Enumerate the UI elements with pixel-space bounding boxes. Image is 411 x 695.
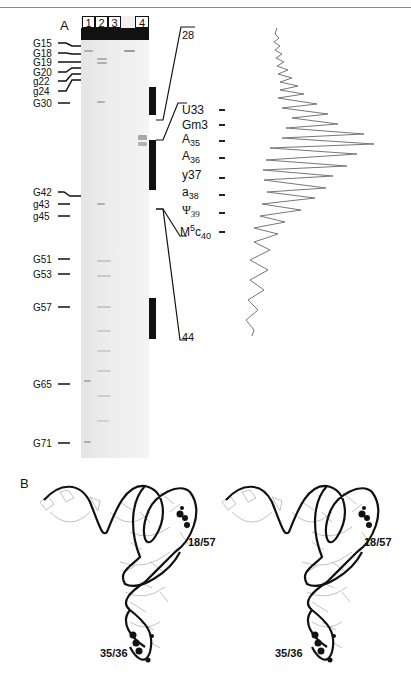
trace-label-a35: A35 [182, 133, 200, 149]
densitometry-trace [220, 20, 400, 340]
trace-label-a38: a38 [182, 186, 199, 202]
bracket-top-label: 28 [182, 30, 194, 40]
trace-label-m5c40: M5c40 [180, 222, 211, 242]
gel-image [81, 16, 149, 458]
trace-label-gm3: Gm3 [182, 119, 208, 131]
annotation-18-57-right: 18/57 [364, 537, 392, 547]
trna-structure-left [30, 472, 230, 672]
lane-1-label: 1 [82, 16, 95, 28]
trace-label-y37: y37 [182, 169, 201, 181]
annotation-35-36-left: 35/36 [100, 648, 128, 658]
gel-wells [81, 28, 149, 40]
trace-label-u33: U33 [182, 104, 204, 116]
trna-structure-right [212, 472, 411, 672]
annotation-35-36-right: 35/36 [275, 648, 303, 658]
marker-leader-lines [0, 0, 82, 460]
trace-label-a36: A36 [182, 150, 200, 166]
trace-label-psi39: Ψ39 [182, 204, 200, 220]
bracket-bottom-label: 44 [182, 332, 194, 342]
panel-b-label: B [20, 476, 29, 491]
lane-3-label: 3 [108, 16, 121, 28]
lane-2-label: 2 [95, 16, 108, 28]
